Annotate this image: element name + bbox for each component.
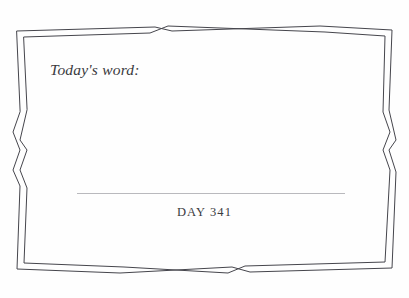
prompt-label: Today's word: [50,61,140,79]
journal-page: Today's word: DAY 341 [0,0,409,298]
writing-rule-line [77,193,345,194]
day-counter-label: DAY 341 [0,205,409,220]
